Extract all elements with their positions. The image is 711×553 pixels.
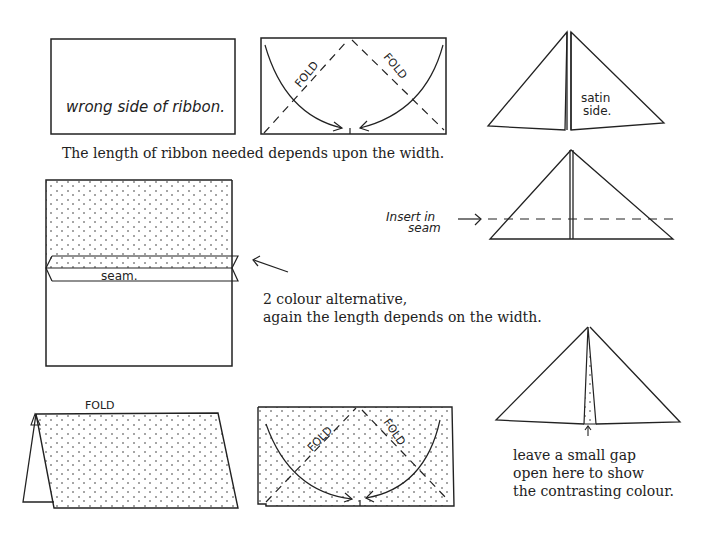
fold-label-right: FOLD xyxy=(381,51,410,82)
satin-label-line1: satin xyxy=(581,91,610,105)
triangle-satin-side: satin side. xyxy=(488,32,664,130)
caption-gap-line1: leave a small gap xyxy=(513,446,636,465)
caption-two-colour-line1: 2 colour alternative, xyxy=(263,290,407,309)
insert-label-line2: seam xyxy=(408,221,441,235)
fold-arrow-right xyxy=(360,45,443,128)
fold-label-left: FOLD xyxy=(292,59,321,90)
caption-two-colour-line2: again the length depends on the width. xyxy=(263,308,542,327)
caption-length-note: The length of ribbon needed depends upon… xyxy=(62,144,444,163)
wrong-side-label: wrong side of ribbon. xyxy=(66,98,225,116)
folded-card-fold: FOLD xyxy=(23,399,238,508)
caption-gap-line3: the contrasting colour. xyxy=(513,482,674,501)
fold-diagram-bottom: FOLD FOLD xyxy=(258,407,454,506)
seam-label: seam. xyxy=(101,269,138,283)
caption-gap-line2: open here to show xyxy=(513,464,644,483)
fold-diagram-top: FOLD FOLD xyxy=(261,38,446,134)
satin-label-line2: side. xyxy=(583,104,611,118)
ribbon-rectangle-wrong-side: wrong side of ribbon. xyxy=(51,39,235,134)
triangle-contrast-gap xyxy=(496,327,680,436)
triangle-insert-seam: Insert in seam xyxy=(386,150,680,239)
fold-label-card: FOLD xyxy=(85,399,115,412)
pointer-arrow xyxy=(254,260,288,272)
two-colour-ribbon: seam. xyxy=(46,180,288,366)
